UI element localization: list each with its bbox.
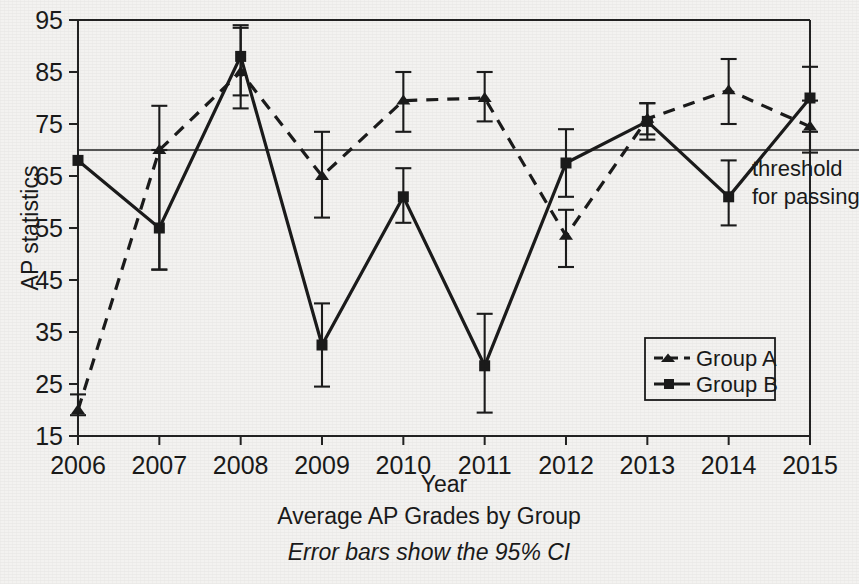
x-tick-label: 2013 bbox=[620, 451, 676, 479]
x-tick-label: 2012 bbox=[538, 451, 594, 479]
data-point-marker-square bbox=[73, 155, 84, 166]
data-point-marker-square bbox=[723, 191, 734, 202]
chart-caption-title: Average AP Grades by Group bbox=[277, 503, 580, 529]
legend[interactable]: Group A Group B bbox=[645, 338, 778, 400]
y-tick-label: 75 bbox=[35, 110, 63, 138]
y-tick-label: 25 bbox=[35, 370, 63, 398]
y-tick-label: 35 bbox=[35, 318, 63, 346]
x-tick-label: 2006 bbox=[50, 451, 106, 479]
data-point-marker-square bbox=[317, 340, 328, 351]
data-point-marker-square bbox=[398, 191, 409, 202]
legend-marker-square-icon bbox=[664, 379, 674, 389]
data-point-marker-square bbox=[805, 93, 816, 104]
y-tick-label: 15 bbox=[35, 422, 63, 450]
legend-label-group-a: Group A bbox=[696, 346, 777, 371]
data-point-marker-square bbox=[561, 158, 572, 169]
y-tick-label: 85 bbox=[35, 58, 63, 86]
chart-caption-subtitle: Error bars show the 95% CI bbox=[288, 539, 571, 565]
threshold-annotation-line2: for passing bbox=[752, 184, 859, 209]
x-tick-label: 2009 bbox=[294, 451, 350, 479]
x-tick-label: 2014 bbox=[701, 451, 757, 479]
x-tick-label: 2008 bbox=[213, 451, 269, 479]
x-axis-title: Year bbox=[421, 471, 468, 497]
data-point-marker-square bbox=[479, 360, 490, 371]
x-tick-label: 2007 bbox=[132, 451, 188, 479]
x-tick-label: 2015 bbox=[782, 451, 838, 479]
data-point-marker-square bbox=[235, 51, 246, 62]
data-point-marker-square bbox=[154, 223, 165, 234]
legend-label-group-b: Group B bbox=[696, 372, 778, 397]
data-point-marker-square bbox=[642, 116, 653, 127]
y-tick-label: 95 bbox=[35, 6, 63, 34]
threshold-annotation-line1: threshold bbox=[752, 156, 843, 181]
ap-statistics-line-chart: 152535455565758595 200620072008200920102… bbox=[0, 0, 859, 584]
y-axis-title: AP statistics bbox=[17, 166, 43, 291]
